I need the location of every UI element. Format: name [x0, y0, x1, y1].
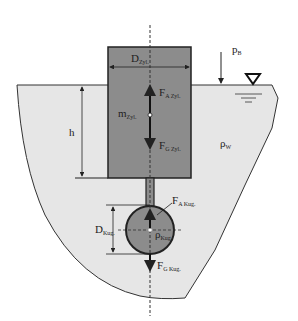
cylinder-diameter-label: DZyl.: [131, 53, 149, 65]
diagram-canvas: [0, 0, 298, 321]
cylinder-buoyancy-label: FA Zyl.: [159, 87, 180, 99]
water-density-label: ρW: [220, 138, 231, 150]
ambient-pressure-label: pB: [232, 44, 242, 56]
sphere-density-label: ρKug.: [155, 229, 172, 241]
sphere-center-point: [148, 228, 152, 232]
depth-label: h: [69, 127, 75, 138]
cylinder-mass-label: mZyl.: [118, 108, 136, 120]
sphere-weight-label: FG Kug.: [157, 260, 181, 272]
sphere-buoyancy-label: FA Kug.: [172, 195, 195, 207]
sphere-diameter-label: DKug.: [95, 224, 115, 236]
cylinder-center-point: [148, 113, 152, 117]
cylinder-weight-label: FG Zyl.: [159, 140, 181, 152]
